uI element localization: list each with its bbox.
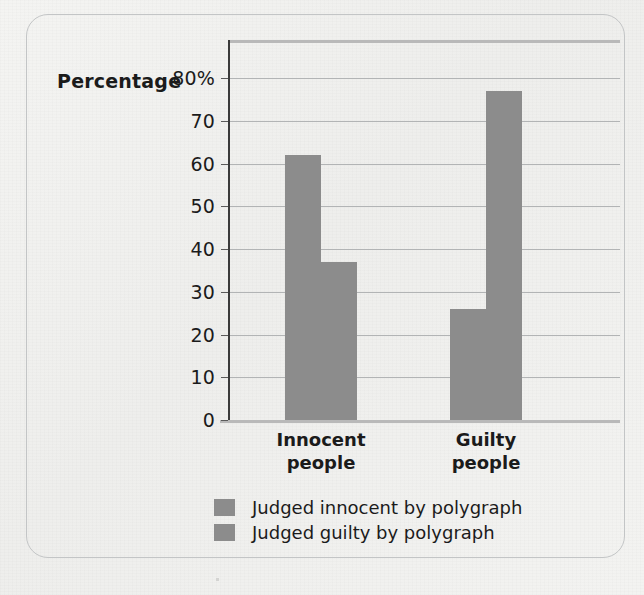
y-axis-tick-label: 40 [190, 238, 215, 260]
y-axis-line [228, 40, 230, 420]
legend-swatch-guilty [214, 524, 235, 541]
y-axis-tick [221, 164, 228, 165]
y-axis-tick-label: 80% [172, 67, 215, 89]
y-axis-tick [221, 206, 228, 207]
x-axis-category-label-line: Guilty [406, 429, 566, 452]
legend-swatch-innocent [214, 499, 235, 516]
x-axis-category-label: Innocentpeople [241, 429, 401, 474]
gridline [230, 121, 620, 122]
legend-label-innocent: Judged innocent by polygraph [252, 497, 522, 518]
y-axis-tick [221, 335, 228, 336]
x-axis-category-label-line: people [406, 452, 566, 475]
y-axis-title: Percentage [57, 70, 181, 92]
bar [486, 91, 522, 420]
y-axis-tick-label: 10 [190, 366, 215, 388]
y-axis-tick [221, 121, 228, 122]
plot-top-rule [228, 40, 620, 43]
x-axis-category-label: Guiltypeople [406, 429, 566, 474]
y-axis-tick-label: 0 [203, 409, 215, 431]
y-axis-tick [221, 249, 228, 250]
x-axis-baseline [220, 420, 620, 423]
y-axis-tick-label: 70 [190, 110, 215, 132]
y-axis-tick-label: 20 [190, 324, 215, 346]
y-axis-tick-label: 60 [190, 153, 215, 175]
page-speck [216, 578, 219, 581]
y-axis-tick-label: 50 [190, 195, 215, 217]
y-axis-tick [221, 377, 228, 378]
gridline [230, 78, 620, 79]
y-axis-tick [221, 292, 228, 293]
legend-item[interactable]: Judged innocent by polygraph [214, 495, 522, 520]
y-axis-tick-label: 30 [190, 281, 215, 303]
chart-legend: Judged innocent by polygraph Judged guil… [214, 495, 522, 545]
bar [321, 262, 357, 420]
y-axis-tick [221, 420, 228, 421]
bar [450, 309, 486, 420]
x-axis-category-label-line: Innocent [241, 429, 401, 452]
y-axis-tick [221, 78, 228, 79]
bar [285, 155, 321, 420]
plot-area: 01020304050607080% [228, 40, 620, 420]
x-axis-category-label-line: people [241, 452, 401, 475]
legend-label-guilty: Judged guilty by polygraph [252, 522, 495, 543]
legend-item[interactable]: Judged guilty by polygraph [214, 520, 522, 545]
